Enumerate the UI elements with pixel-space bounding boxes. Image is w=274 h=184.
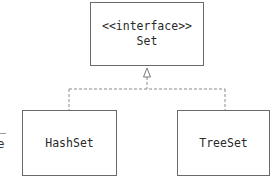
interface-stereotype: <<interface>> [102,19,192,34]
cutoff-line-fragment [0,133,6,134]
class-hashset-name: HashSet [45,136,93,151]
class-treeset-box[interactable]: TreeSet [177,110,270,176]
cutoff-text-fragment: e [0,137,4,151]
class-treeset-name: TreeSet [199,136,247,151]
interface-set-box[interactable]: <<interface>> Set [90,2,204,66]
interface-name: Set [137,34,158,49]
realization-arrowhead-icon [144,68,151,77]
class-hashset-box[interactable]: HashSet [22,110,117,176]
